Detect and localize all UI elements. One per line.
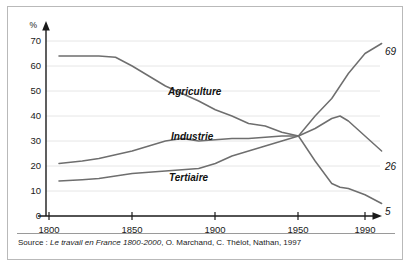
series-line-agriculture	[59, 56, 382, 204]
endpoint-label-agriculture: 5	[385, 206, 391, 217]
source-divider	[17, 233, 395, 234]
chart-figure: % 70 60 50 40 30 20 10 0 1800 1850 1900 …	[7, 6, 403, 260]
y-tick-30: 30	[30, 135, 41, 146]
y-axis-tick-labels: % 70 60 50 40 30 20 10 0	[29, 20, 41, 221]
y-axis	[42, 21, 50, 216]
y-tick-20: 20	[30, 160, 41, 171]
series-lines	[59, 44, 382, 204]
source-rest: , O. Marchand, C. Thélot, Nathan, 1997	[161, 238, 301, 247]
y-tick-70: 70	[30, 35, 41, 46]
y-axis-unit-label: %	[29, 20, 37, 30]
y-tick-0: 0	[36, 210, 41, 221]
y-tick-40: 40	[30, 110, 41, 121]
series-label-industrie: Industrie	[171, 131, 214, 142]
series-line-industrie	[59, 116, 382, 164]
source-citation: Source : Le travail en France 1800-2000,…	[18, 238, 398, 247]
source-title: Le travail en France 1800-2000	[50, 238, 161, 247]
employment-sectors-line-chart: % 70 60 50 40 30 20 10 0 1800 1850 1900 …	[8, 7, 404, 261]
y-tick-60: 60	[30, 60, 41, 71]
gridlines	[46, 41, 380, 191]
endpoint-label-industrie: 26	[384, 161, 397, 172]
y-tick-10: 10	[30, 185, 41, 196]
series-label-agriculture: Agriculture	[167, 86, 222, 97]
endpoint-labels: 69 26 5	[384, 46, 397, 217]
y-tick-50: 50	[30, 85, 41, 96]
series-label-tertiaire: Tertiaire	[169, 172, 209, 183]
x-axis	[38, 212, 382, 220]
endpoint-label-tertiaire: 69	[385, 46, 397, 57]
source-prefix: Source :	[18, 238, 50, 247]
